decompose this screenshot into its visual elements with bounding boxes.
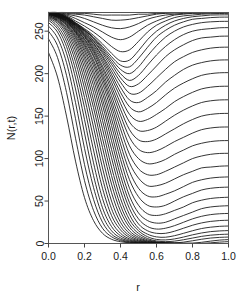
curve-t13 — [49, 14, 229, 240]
x-axis-ticks: 0.00.20.40.60.81.0 — [41, 244, 236, 262]
curve-t6 — [49, 20, 229, 243]
y-tick-label: 150 — [34, 107, 46, 125]
y-tick-label: 100 — [34, 150, 46, 168]
y-tick-label: 250 — [34, 22, 46, 40]
y-axis-ticks: 050100150200250 — [34, 22, 49, 246]
y-tick-label: 0 — [34, 240, 46, 246]
curve-series-group — [49, 12, 229, 243]
y-axis-title: N(r,t) — [5, 116, 17, 140]
x-tick-label: 0.4 — [113, 250, 128, 262]
x-tick-label: 0.8 — [185, 250, 200, 262]
curve-t14 — [49, 14, 229, 237]
x-tick-label: 0.6 — [149, 250, 164, 262]
figure-container: 0.00.20.40.60.81.0 050100150200250 r N(r… — [0, 0, 245, 298]
x-tick-label: 1.0 — [221, 250, 236, 262]
x-tick-label: 0.2 — [77, 250, 92, 262]
x-tick-label: 0.0 — [41, 250, 56, 262]
x-axis-title: r — [136, 281, 140, 293]
y-tick-label: 200 — [34, 65, 46, 83]
curve-t1 — [49, 52, 229, 243]
line-chart: 0.00.20.40.60.81.0 050100150200250 r N(r… — [0, 0, 245, 298]
curve-t12 — [49, 15, 229, 242]
y-tick-label: 50 — [34, 195, 46, 207]
